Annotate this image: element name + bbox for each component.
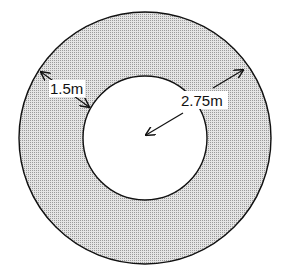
radius-label: 2.75m	[181, 92, 223, 109]
width-label: 1.5m	[50, 80, 83, 97]
annulus-diagram: 1.5m 2.75m	[0, 0, 281, 274]
